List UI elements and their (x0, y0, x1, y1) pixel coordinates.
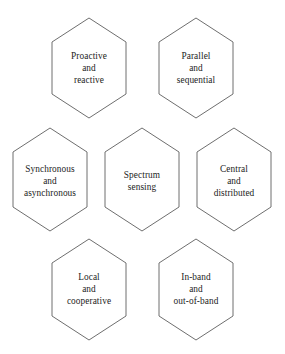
hexagon-outline-spectrum-sensing (105, 128, 179, 231)
hexagon-outline-in-band-out-of-band (159, 239, 233, 340)
hexagon-outline-parallel-sequential (159, 18, 233, 118)
hexagon-diagram: Proactive and reactive Parallel and sequ… (0, 0, 285, 354)
hexagon-outline-synchronous-asynchronous (13, 128, 87, 231)
hexagon-outline-local-cooperative (52, 239, 126, 340)
hexagon-outline-proactive-reactive (52, 18, 126, 118)
hexagon-outline-central-distributed (197, 128, 271, 231)
hexagon-outlines-svg (0, 0, 285, 354)
